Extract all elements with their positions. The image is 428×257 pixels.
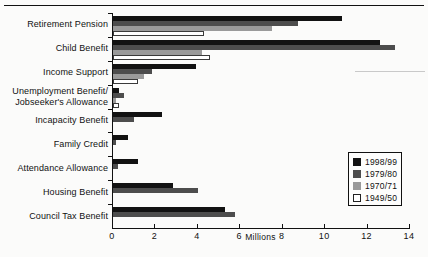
category-label-line: Attendance Allowance [0, 163, 108, 174]
legend-label: 1970/71 [365, 181, 397, 191]
y-axis-tick [108, 109, 112, 110]
category-label-line: Council Tax Benefit [0, 211, 108, 222]
category-label: Family Credit [0, 139, 108, 150]
category-label-line: Jobseeker's Allowance [0, 97, 108, 108]
category-label: Attendance Allowance [0, 163, 108, 174]
category-label: Council Tax Benefit [0, 211, 108, 222]
category-label: Unemployment Benefit/Jobseeker's Allowan… [0, 86, 108, 108]
x-axis-tick [324, 224, 325, 229]
figure-top-rule [4, 5, 424, 6]
category-label: Child Benefit [0, 43, 108, 54]
x-axis-title: Millions [112, 232, 409, 242]
bar-1 [113, 164, 118, 169]
legend-swatch-icon [353, 194, 361, 202]
category-axis-labels: Retirement PensionChild BenefitIncome Su… [0, 13, 108, 228]
bar-chart-figure: Retirement PensionChild BenefitIncome Su… [0, 0, 428, 257]
category-label-line: Child Benefit [0, 43, 108, 54]
y-axis-tick [108, 204, 112, 205]
x-axis-tick [112, 224, 113, 229]
legend-entry: 1998/99 [353, 156, 397, 167]
bar-1 [113, 212, 235, 217]
legend-entry: 1970/71 [353, 180, 397, 191]
category-label: Income Support [0, 67, 108, 78]
category-label-line: Family Credit [0, 139, 108, 150]
legend-label: 1998/99 [365, 157, 397, 167]
x-axis-tick [197, 224, 198, 229]
y-axis-tick [108, 156, 112, 157]
legend-swatch-icon [353, 158, 361, 166]
bar-1 [113, 117, 134, 122]
x-axis-tick [282, 224, 283, 229]
bar-1 [113, 188, 198, 193]
bar-3 [113, 55, 210, 60]
legend-label: 1979/80 [365, 169, 397, 179]
legend-entry: 1979/80 [353, 168, 397, 179]
chart-legend: 1998/991979/801970/711949/50 [348, 152, 402, 206]
y-axis-tick [108, 61, 112, 62]
category-label-line: Unemployment Benefit/ [0, 86, 108, 97]
x-axis-tick [367, 224, 368, 229]
y-axis-tick [108, 85, 112, 86]
category-label: Incapacity Benefit [0, 115, 108, 126]
bar-3 [113, 103, 119, 108]
category-label-line: Income Support [0, 67, 108, 78]
legend-label: 1949/50 [365, 193, 397, 203]
x-axis-tick [409, 224, 410, 229]
category-label-line: Incapacity Benefit [0, 115, 108, 126]
bar-1 [113, 140, 116, 145]
legend-swatch-icon [353, 182, 361, 190]
y-axis-tick [108, 180, 112, 181]
x-axis-tick [154, 224, 155, 229]
category-label-line: Retirement Pension [0, 19, 108, 30]
y-axis-tick [108, 37, 112, 38]
category-label: Retirement Pension [0, 19, 108, 30]
category-label-line: Housing Benefit [0, 187, 108, 198]
y-axis-tick [108, 13, 112, 14]
legend-entry: 1949/50 [353, 192, 397, 203]
category-label: Housing Benefit [0, 187, 108, 198]
y-axis-tick [108, 132, 112, 133]
bar-3 [113, 31, 204, 36]
x-axis-tick [239, 224, 240, 229]
bar-3 [113, 79, 138, 84]
legend-swatch-icon [353, 170, 361, 178]
x-axis-line [112, 228, 410, 229]
